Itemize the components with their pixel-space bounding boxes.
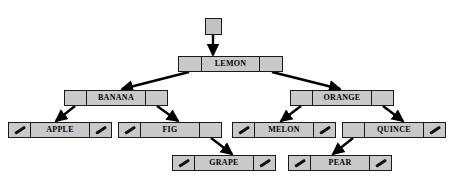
node-banana-left-pointer[interactable] <box>65 91 87 105</box>
node-grape-label: GRAPE <box>195 156 253 170</box>
tree-node-grape[interactable]: GRAPE <box>172 155 276 171</box>
tree-node-quince[interactable]: QUINCE <box>342 122 446 138</box>
node-orange-label: ORANGE <box>313 91 371 105</box>
node-pear-right-pointer[interactable] <box>369 156 391 170</box>
tree-node-melon[interactable]: MELON <box>232 122 336 138</box>
node-orange-right-pointer[interactable] <box>371 91 393 105</box>
node-apple-right-pointer[interactable] <box>89 123 111 137</box>
node-grape-right-pointer[interactable] <box>253 156 275 170</box>
node-fig-right-pointer[interactable] <box>199 123 221 137</box>
node-orange-left-pointer[interactable] <box>291 91 313 105</box>
edge-fig-to-grape <box>211 138 232 154</box>
node-melon-label: MELON <box>255 123 313 137</box>
node-fig-label: FIG <box>141 123 199 137</box>
node-melon-right-pointer[interactable] <box>313 123 335 137</box>
node-apple-label: APPLE <box>31 123 89 137</box>
tree-node-lemon[interactable]: LEMON <box>178 56 283 72</box>
tree-node-fig[interactable]: FIG <box>118 122 222 138</box>
node-banana-right-pointer[interactable] <box>145 91 167 105</box>
node-pear-label: PEAR <box>311 156 369 170</box>
edge-orange-to-melon <box>281 106 301 121</box>
node-lemon-right-pointer[interactable] <box>259 57 282 71</box>
tree-node-orange[interactable]: ORANGE <box>290 90 394 106</box>
node-fig-left-pointer[interactable] <box>119 123 141 137</box>
node-melon-left-pointer[interactable] <box>233 123 255 137</box>
node-banana-label: BANANA <box>87 91 145 105</box>
node-quince-left-pointer[interactable] <box>343 123 365 137</box>
edge-lemon-to-orange <box>272 72 340 89</box>
edge-lemon-to-banana <box>122 72 189 89</box>
node-quince-right-pointer[interactable] <box>423 123 445 137</box>
tree-diagram-canvas: LEMONBANANAORANGEAPPLEFIGMELONQUINCEGRAP… <box>0 0 454 185</box>
node-quince-label: QUINCE <box>365 123 423 137</box>
tree-node-apple[interactable]: APPLE <box>8 122 112 138</box>
edge-banana-to-fig <box>157 106 178 121</box>
tree-node-banana[interactable]: BANANA <box>64 90 168 106</box>
node-lemon-label: LEMON <box>202 57 259 71</box>
tree-node-pear[interactable]: PEAR <box>288 155 392 171</box>
node-grape-left-pointer[interactable] <box>173 156 195 170</box>
edge-orange-to-quince <box>383 106 403 121</box>
edge-quince-to-pear <box>333 138 353 154</box>
node-apple-left-pointer[interactable] <box>9 123 31 137</box>
node-lemon-left-pointer[interactable] <box>179 57 202 71</box>
node-pear-left-pointer[interactable] <box>289 156 311 170</box>
root-handle-box[interactable] <box>205 18 222 35</box>
edge-banana-to-apple <box>56 106 75 121</box>
